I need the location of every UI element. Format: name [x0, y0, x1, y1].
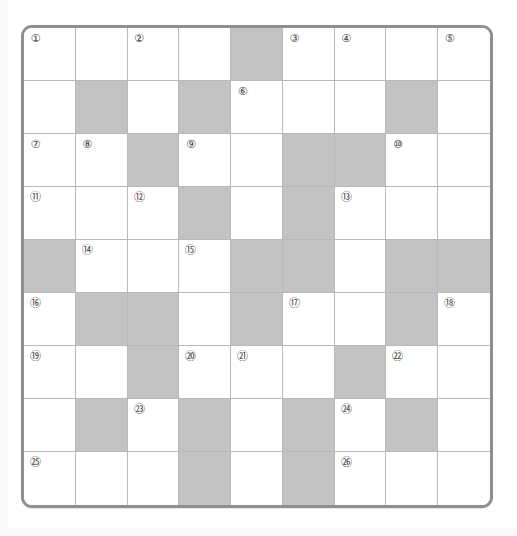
clue-number: ⑯ [28, 296, 43, 311]
grid-cell-open[interactable]: ① [24, 28, 76, 81]
grid-cell-open[interactable] [24, 399, 76, 452]
grid-cell-blocked [283, 134, 335, 187]
clue-number: ⑧ [80, 137, 95, 152]
grid-cell-open[interactable]: ⑯ [24, 293, 76, 346]
grid-cell-open[interactable]: ㉓ [128, 399, 180, 452]
grid-cell-open[interactable] [128, 81, 180, 134]
grid-cell-blocked [128, 293, 180, 346]
grid-cell-open[interactable] [231, 399, 283, 452]
grid-cell-blocked [128, 134, 180, 187]
grid-cell-blocked [386, 399, 438, 452]
grid-cell-open[interactable] [128, 240, 180, 293]
grid-cell-blocked [24, 240, 76, 293]
grid-cell-open[interactable] [386, 452, 438, 505]
grid-cell-open[interactable] [76, 346, 128, 399]
grid-cell-open[interactable]: ⑰ [283, 293, 335, 346]
grid-cell-open[interactable] [438, 187, 490, 240]
grid-cell-open[interactable] [231, 452, 283, 505]
grid-cell-open[interactable] [76, 452, 128, 505]
grid-cell-open[interactable]: ⑬ [335, 187, 387, 240]
grid-cell-open[interactable]: ⑧ [76, 134, 128, 187]
grid-cell-open[interactable] [283, 346, 335, 399]
grid-cell-open[interactable] [386, 187, 438, 240]
crossword-frame: ①②③④⑤⑥⑦⑧⑨⑩⑪⑫⑬⑭⑮⑯⑰⑱⑲⑳㉑㉒㉓㉔㉕㉖ [21, 25, 493, 508]
clue-number: ⑦ [28, 137, 43, 152]
grid-cell-open[interactable] [76, 28, 128, 81]
clue-number: ① [28, 31, 43, 46]
grid-cell-open[interactable]: ② [128, 28, 180, 81]
grid-cell-open[interactable]: ⑥ [231, 81, 283, 134]
grid-cell-open[interactable]: ⑤ [438, 28, 490, 81]
clue-number: ㉖ [339, 455, 354, 470]
grid-cell-open[interactable] [179, 293, 231, 346]
grid-cell-open[interactable]: ⑮ [179, 240, 231, 293]
grid-cell-open[interactable]: ㉑ [231, 346, 283, 399]
grid-cell-open[interactable]: ⑳ [179, 346, 231, 399]
grid-cell-open[interactable]: ⑦ [24, 134, 76, 187]
grid-cell-open[interactable]: ⑭ [76, 240, 128, 293]
grid-cell-blocked [283, 399, 335, 452]
grid-cell-blocked [179, 187, 231, 240]
grid-cell-blocked [179, 452, 231, 505]
clue-number: ⑰ [287, 296, 302, 311]
grid-cell-blocked [335, 346, 387, 399]
grid-cell-open[interactable]: ④ [335, 28, 387, 81]
grid-cell-blocked [128, 346, 180, 399]
grid-cell-open[interactable]: ⑪ [24, 187, 76, 240]
clue-number: ⑨ [183, 137, 198, 152]
grid-cell-open[interactable]: ㉒ [386, 346, 438, 399]
grid-cell-open[interactable] [76, 187, 128, 240]
clue-number: ㉓ [132, 402, 147, 417]
grid-cell-open[interactable] [231, 187, 283, 240]
grid-cell-open[interactable]: ⑱ [438, 293, 490, 346]
grid-cell-open[interactable]: ⑨ [179, 134, 231, 187]
clue-number: ⑪ [28, 190, 43, 205]
grid-cell-open[interactable]: ㉖ [335, 452, 387, 505]
clue-number: ② [132, 31, 147, 46]
grid-cell-blocked [283, 452, 335, 505]
grid-cell-open[interactable] [335, 293, 387, 346]
grid-cell-open[interactable] [335, 240, 387, 293]
grid-cell-blocked [283, 240, 335, 293]
grid-cell-blocked [438, 240, 490, 293]
grid-cell-open[interactable] [438, 399, 490, 452]
page-edge-tint-bottom [0, 528, 517, 536]
grid-cell-open[interactable] [438, 81, 490, 134]
grid-cell-open[interactable]: ㉔ [335, 399, 387, 452]
clue-number: ⑥ [235, 84, 250, 99]
grid-cell-blocked [335, 134, 387, 187]
grid-cell-blocked [386, 293, 438, 346]
clue-number: ⑲ [28, 349, 43, 364]
grid-cell-open[interactable] [283, 81, 335, 134]
grid-cell-open[interactable] [335, 81, 387, 134]
grid-cell-open[interactable] [231, 134, 283, 187]
clue-number: ㉑ [235, 349, 250, 364]
crossword-grid: ①②③④⑤⑥⑦⑧⑨⑩⑪⑫⑬⑭⑮⑯⑰⑱⑲⑳㉑㉒㉓㉔㉕㉖ [24, 28, 490, 505]
grid-cell-blocked [76, 293, 128, 346]
clue-number: ⑩ [390, 137, 405, 152]
grid-cell-blocked [231, 28, 283, 81]
clue-number: ㉒ [390, 349, 405, 364]
grid-cell-blocked [179, 81, 231, 134]
grid-cell-open[interactable]: ⑫ [128, 187, 180, 240]
grid-cell-open[interactable]: ⑲ [24, 346, 76, 399]
grid-cell-open[interactable] [438, 134, 490, 187]
grid-cell-open[interactable] [179, 28, 231, 81]
grid-cell-open[interactable] [128, 452, 180, 505]
grid-cell-open[interactable]: ⑩ [386, 134, 438, 187]
grid-cell-open[interactable]: ㉕ [24, 452, 76, 505]
grid-cell-blocked [386, 81, 438, 134]
clue-number: ㉔ [339, 402, 354, 417]
grid-cell-open[interactable] [24, 81, 76, 134]
grid-cell-open[interactable]: ③ [283, 28, 335, 81]
grid-cell-open[interactable] [438, 452, 490, 505]
grid-cell-blocked [231, 293, 283, 346]
clue-number: ⑫ [132, 190, 147, 205]
grid-cell-blocked [231, 240, 283, 293]
clue-number: ④ [339, 31, 354, 46]
grid-cell-open[interactable] [386, 28, 438, 81]
clue-number: ㉕ [28, 455, 43, 470]
clue-number: ⑤ [442, 31, 457, 46]
grid-cell-open[interactable] [438, 346, 490, 399]
grid-cell-blocked [179, 399, 231, 452]
